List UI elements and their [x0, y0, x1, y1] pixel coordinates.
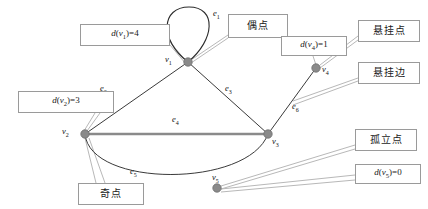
vertex-label-v2: v2 [62, 126, 69, 138]
diagram-canvas: v1 v2 v3 v4 v5 e1 e2 e3 e4 e5 e6 d(v1)=4… [0, 0, 428, 209]
edge-e1-loop[interactable] [167, 7, 209, 62]
callout-degree-v1[interactable]: d(v1)=4 [80, 24, 170, 46]
callout-isolated-vertex-label: 孤立点 [370, 135, 403, 145]
leader-line [293, 81, 358, 105]
leader-line [85, 138, 96, 183]
leader-line [191, 35, 228, 60]
leader-line [221, 145, 355, 186]
callout-degree-v2[interactable]: d(v2)=3 [18, 91, 114, 113]
leader-line [191, 38, 228, 63]
callout-isolated-vertex[interactable]: 孤立点 [355, 129, 417, 151]
callout-degree-v5[interactable]: d(v5)=0 [355, 164, 421, 184]
edge-e5-arc[interactable] [85, 134, 268, 175]
callout-degree-v2-label: d(v2)=3 [52, 96, 79, 107]
vertex-label-v1: v1 [165, 54, 172, 66]
callout-odd-vertex[interactable]: 奇点 [78, 183, 144, 205]
vertex-v5[interactable] [213, 184, 221, 192]
edge-label-e5: e5 [130, 166, 137, 178]
callout-pendant-edge-label: 悬挂边 [373, 68, 406, 78]
callout-degree-v1-label: d(v1)=4 [111, 29, 138, 40]
vertex-v3[interactable] [264, 130, 272, 138]
leader-line [221, 149, 355, 189]
vertex-label-v3: v3 [272, 136, 279, 148]
vertex-v4[interactable] [312, 64, 320, 72]
edge-label-e6: e6 [292, 101, 299, 113]
leader-line [89, 138, 105, 183]
vertex-label-v5: v5 [212, 172, 219, 184]
edge-label-e4: e4 [172, 114, 179, 126]
callout-even-vertex[interactable]: 偶点 [228, 14, 288, 38]
callout-degree-v4-label: d(v4)=1 [300, 40, 327, 51]
callout-pendant-edge[interactable]: 悬挂边 [358, 62, 420, 84]
leader-line [293, 78, 358, 101]
callout-pendant-vertex[interactable]: 悬挂点 [358, 20, 420, 42]
callout-degree-v4[interactable]: d(v4)=1 [281, 36, 347, 56]
callout-degree-v5-label: d(v5)=0 [374, 168, 401, 179]
edge-e3[interactable] [188, 62, 268, 134]
callout-even-vertex-label: 偶点 [247, 21, 269, 31]
callout-pendant-vertex-label: 悬挂点 [373, 26, 406, 36]
callout-odd-vertex-label: 奇点 [100, 189, 122, 199]
vertex-v2[interactable] [81, 130, 89, 138]
edge-label-e1: e1 [213, 8, 220, 20]
vertex-v1[interactable] [184, 58, 192, 66]
vertex-label-v4: v4 [322, 64, 329, 76]
edge-label-e3: e3 [225, 83, 232, 95]
